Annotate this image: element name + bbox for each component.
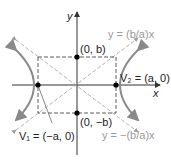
hyperbola-diagram: y x (0, b) (0, −b) V₂ = (a, 0) V₁ = (−a,… (0, 0, 171, 160)
label-v2: V₂ = (a, 0) (120, 72, 170, 84)
y-axis-label: y (66, 10, 74, 22)
label-v1: V₁ = (−a, 0) (19, 130, 75, 142)
label-bottom: (0, −b) (80, 116, 112, 128)
x-axis-label: x (152, 87, 159, 99)
label-asymptote-negative: y = −(b/a)x (102, 129, 155, 141)
vertex-v1 (35, 82, 40, 87)
v1-leader (39, 88, 52, 123)
label-asymptote-positive: y = (b/a)x (108, 28, 155, 40)
label-top: (0, b) (80, 43, 106, 55)
vertex-v2 (113, 82, 118, 87)
point-bottom (74, 110, 79, 115)
point-top (74, 54, 79, 59)
